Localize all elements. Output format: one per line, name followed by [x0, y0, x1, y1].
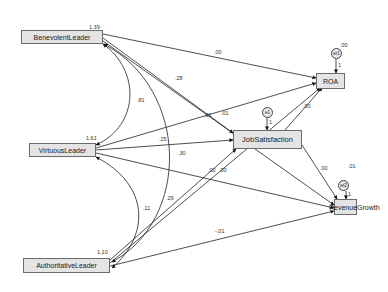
node-revenue-growth[interactable]: RevenueGrowth: [334, 199, 357, 215]
weight-er1: 1: [338, 63, 341, 69]
path-authoritative-roa: [110, 88, 320, 263]
label-cov-bv: .81: [137, 98, 145, 104]
label-job-roa: .00: [303, 104, 311, 110]
weight-er2: 1: [348, 192, 351, 198]
variance-er2: .01: [348, 164, 356, 170]
error-er2[interactable]: er2: [338, 180, 349, 191]
variance-authoritative: 1.10: [97, 250, 108, 256]
label-benevolent-roa: .00: [214, 50, 222, 56]
node-virtuous-leader[interactable]: VirtuousLeader: [29, 143, 96, 157]
path-authoritative-job: [110, 149, 236, 260]
node-job-satisfaction[interactable]: JobSatisfaction: [233, 130, 302, 149]
path-benevolent-rev: [103, 41, 334, 205]
label-authoritative-roa: .00: [219, 168, 227, 174]
node-roa[interactable]: ROA: [316, 73, 345, 89]
label-authoritative-job: .29: [166, 196, 174, 202]
path-job-rev: [302, 145, 337, 199]
cov-benevolent-virtuous: [96, 44, 130, 145]
path-authoritative-rev: [110, 211, 334, 266]
path-benevolent-roa: [103, 34, 316, 78]
variance-er1: .00: [340, 43, 348, 49]
weight-e1: 1: [269, 120, 272, 126]
node-benevolent-leader[interactable]: BenevolentLeader: [21, 30, 103, 44]
error-er1[interactable]: er1: [331, 48, 342, 59]
error-e1[interactable]: e1: [262, 107, 273, 118]
label-cov-va: .11: [143, 206, 150, 212]
label-cov-ba: .30: [178, 151, 186, 157]
variance-benevolent: 1.39: [89, 25, 100, 31]
label-benevolent-rev: .01: [221, 111, 229, 117]
path-virtuous-rev: [96, 153, 334, 208]
label-authoritative-rev: -.01: [215, 229, 224, 235]
label-benevolent-job: .28: [175, 76, 183, 82]
label-virtuous-roa: .01: [204, 113, 212, 119]
variance-virtuous: 1.61: [86, 136, 97, 142]
label-job-rev: .00: [320, 166, 328, 172]
label-virtuous-rev: .00: [208, 168, 216, 174]
node-authoritative-leader[interactable]: AuthoritativeLeader: [23, 258, 110, 273]
label-virtuous-job: .25: [159, 137, 167, 143]
